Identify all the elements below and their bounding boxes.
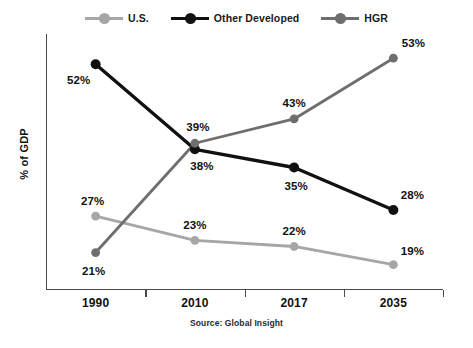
x-axis-tick xyxy=(145,290,146,297)
data-label: 21% xyxy=(82,265,105,277)
x-axis-tick xyxy=(245,290,246,297)
data-label: 22% xyxy=(282,225,305,237)
legend-item-other-developed[interactable]: Other Developed xyxy=(171,12,300,24)
x-axis-label-2017: 2017 xyxy=(280,296,308,310)
data-point-marker xyxy=(190,144,200,154)
source-note: Source: Global Insight xyxy=(0,318,473,328)
data-label: 19% xyxy=(401,245,424,257)
series-line-hgr xyxy=(96,58,394,252)
x-axis-label-1990: 1990 xyxy=(82,296,110,310)
data-label: 39% xyxy=(186,121,209,133)
data-point-marker xyxy=(91,248,100,257)
data-point-marker xyxy=(289,163,299,173)
x-axis-tick xyxy=(344,290,345,297)
legend-swatch-hgr-icon xyxy=(321,13,359,24)
legend-item-hgr[interactable]: HGR xyxy=(321,12,388,24)
data-point-marker xyxy=(290,242,299,251)
data-label: 52% xyxy=(67,74,90,86)
x-axis-label-2010: 2010 xyxy=(181,296,209,310)
data-point-marker xyxy=(190,236,199,245)
x-axis-label-2035: 2035 xyxy=(380,296,408,310)
data-point-marker xyxy=(388,205,398,215)
chart-legend: U.S. Other Developed HGR xyxy=(0,12,473,24)
legend-label-us: U.S. xyxy=(128,12,149,24)
data-point-marker xyxy=(389,54,398,63)
legend-swatch-other-developed-icon xyxy=(171,13,209,24)
data-label: 38% xyxy=(190,160,213,172)
series-line-other-developed xyxy=(96,64,394,210)
legend-label-hgr: HGR xyxy=(364,12,388,24)
x-axis-tick xyxy=(443,290,444,297)
line-chart: U.S. Other Developed HGR % of GDP 199020… xyxy=(0,0,473,348)
legend-swatch-us-icon xyxy=(85,13,123,24)
legend-label-other-developed: Other Developed xyxy=(214,12,300,24)
data-point-marker xyxy=(91,212,100,221)
data-label: 23% xyxy=(183,219,206,231)
data-point-marker xyxy=(190,139,199,148)
data-label: 35% xyxy=(284,180,307,192)
y-axis-title: % of GDP xyxy=(18,99,30,209)
legend-item-us[interactable]: U.S. xyxy=(85,12,149,24)
data-label: 43% xyxy=(282,97,305,109)
data-point-marker xyxy=(91,59,101,69)
y-axis-line xyxy=(46,34,47,290)
data-label: 53% xyxy=(402,37,425,49)
data-label: 28% xyxy=(401,189,424,201)
data-point-marker xyxy=(290,115,299,124)
data-point-marker xyxy=(389,260,398,269)
series-line-u-s- xyxy=(96,216,394,265)
data-label: 27% xyxy=(81,195,104,207)
